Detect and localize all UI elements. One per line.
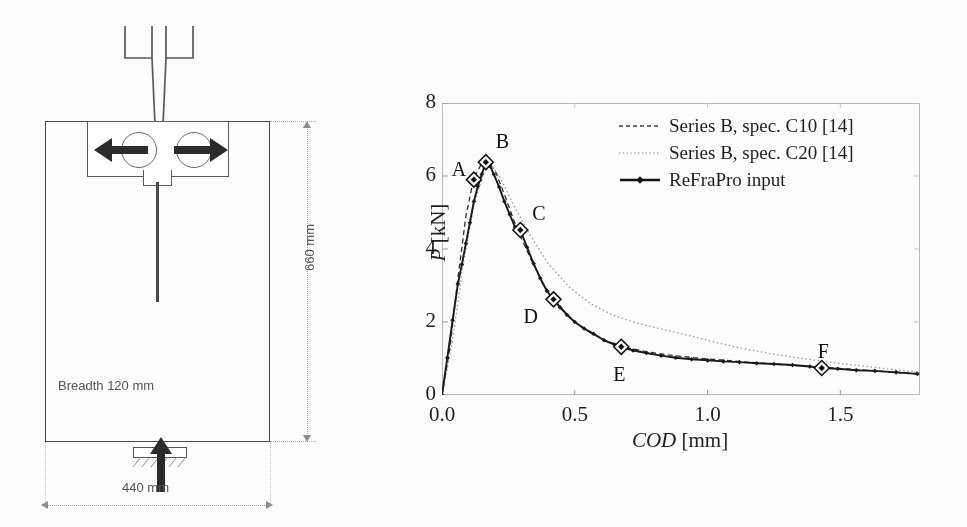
specimen-breadth-label: Breadth 120 mm [58, 378, 154, 393]
x-axis-tick-label: 1.0 [678, 402, 738, 427]
specimen-height-label: 660 mm [302, 224, 317, 271]
y-axis-tick-label: 0 [410, 381, 436, 406]
wedge-blade-icon [148, 24, 170, 136]
legend-label-refrapro: ReFraPro input [669, 169, 786, 191]
figure-page: 660 mm 440 mm Breadth 120 mm P [kN] COD … [0, 0, 967, 527]
dimension-extension-right [270, 442, 271, 504]
dimension-line-height [307, 121, 309, 442]
y-axis-label: P [kN] [426, 173, 451, 293]
specimen-width-label: 440 mm [122, 480, 169, 495]
dimension-arrow-down-icon [303, 435, 311, 442]
curve-point-label-c: C [532, 202, 545, 225]
curve-point-label-a: A [452, 158, 466, 181]
y-axis-tick-label: 8 [410, 89, 436, 114]
legend-item-series-c10: Series B, spec. C10 [14] [618, 112, 908, 139]
x-axis-label: COD [mm] [560, 428, 800, 453]
legend-item-series-c20: Series B, spec. C20 [14] [618, 139, 908, 166]
x-axis-tick-label: 0.5 [545, 402, 605, 427]
curve-point-label-d: D [524, 305, 538, 328]
splitting-force-arrow-right-icon [174, 135, 230, 169]
specimen-diagram-panel: 660 mm 440 mm Breadth 120 mm [0, 0, 400, 527]
legend-label-series-c10: Series B, spec. C10 [14] [669, 115, 854, 137]
notch-cut [156, 182, 159, 302]
dimension-arrow-right-icon [266, 501, 273, 509]
curve-point-label-e: E [613, 363, 625, 386]
splitting-force-arrow-left-icon [92, 135, 148, 169]
legend-label-series-c20: Series B, spec. C20 [14] [669, 142, 854, 164]
y-axis-tick-label: 6 [410, 162, 436, 187]
legend-swatch-solid-marker-icon [618, 173, 662, 187]
dimension-arrow-up-icon [303, 121, 311, 128]
dimension-arrow-left-icon [41, 501, 48, 509]
x-axis-tick-label: 1.5 [810, 402, 870, 427]
dimension-line-width [45, 505, 271, 506]
legend-swatch-dashed-icon [618, 119, 662, 133]
legend-item-refrapro: ReFraPro input [618, 166, 908, 193]
y-axis-tick-label: 2 [410, 308, 436, 333]
legend-swatch-dotted-icon [618, 146, 662, 160]
chart-legend: Series B, spec. C10 [14] Series B, spec.… [618, 112, 908, 193]
curve-point-label-f: F [818, 340, 829, 363]
curve-point-label-b: B [496, 130, 509, 153]
y-axis-tick-label: 4 [410, 235, 436, 260]
dimension-extension-left [45, 442, 46, 504]
load-cod-chart-panel: P [kN] COD [mm] Series B, spec. C10 [14] [400, 60, 967, 460]
